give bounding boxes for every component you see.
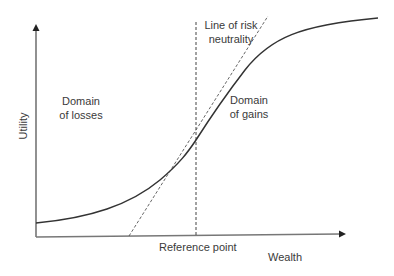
risk-neutrality-line: [129, 16, 268, 236]
reference-point-label: Reference point: [159, 240, 237, 254]
x-axis-arrow-icon: [339, 231, 346, 238]
risk-neutrality-label: Line of risk neutrality: [196, 18, 266, 46]
y-axis-label: Utility: [16, 113, 30, 140]
risk-label-line2: neutrality: [196, 32, 266, 46]
losses-label-line1: Domain: [54, 94, 108, 108]
risk-label-line1: Line of risk: [196, 18, 266, 32]
losses-label-line2: of losses: [54, 108, 108, 122]
domain-of-losses-label: Domain of losses: [54, 94, 108, 122]
domain-of-gains-label: Domain of gains: [224, 93, 274, 121]
gains-label-line2: of gains: [224, 107, 274, 121]
x-axis: [36, 234, 340, 237]
gains-label-line1: Domain: [224, 93, 274, 107]
x-axis-label: Wealth: [268, 250, 302, 264]
y-axis-arrow-icon: [33, 24, 40, 31]
